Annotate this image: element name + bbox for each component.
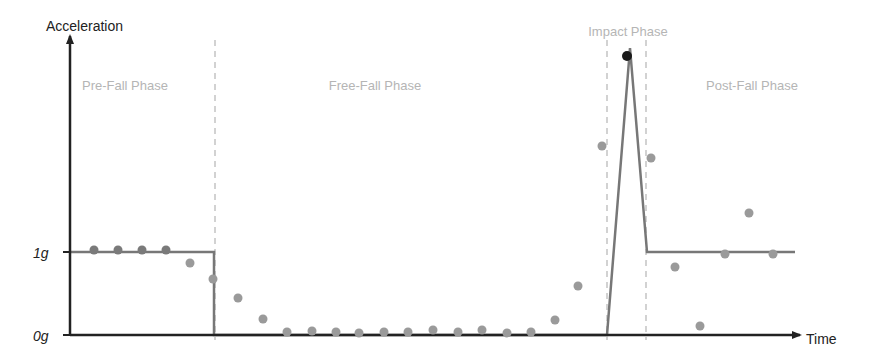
phase-dividers <box>215 40 646 340</box>
data-point <box>234 294 243 303</box>
data-points <box>90 51 778 338</box>
data-point <box>598 142 607 151</box>
acceleration-model-line <box>70 48 795 335</box>
data-point <box>696 322 705 331</box>
data-point <box>355 329 364 338</box>
data-point <box>671 263 680 272</box>
data-point <box>308 327 317 336</box>
data-point <box>259 315 268 324</box>
data-point <box>138 246 147 255</box>
phase-label: Free-Fall Phase <box>329 78 421 93</box>
data-point <box>574 282 583 291</box>
data-point <box>114 246 123 255</box>
data-point <box>454 328 463 337</box>
diagram-canvas: Pre-Fall PhaseFree-Fall PhaseImpact Phas… <box>0 0 878 361</box>
x-axis-label: Time <box>806 331 837 347</box>
data-point <box>186 259 195 268</box>
data-point <box>745 209 754 218</box>
data-point <box>551 316 560 325</box>
data-point <box>721 250 730 259</box>
tick-label-0g: 0g <box>33 328 49 344</box>
y-axis-label: Acceleration <box>46 18 123 34</box>
data-point <box>404 328 413 337</box>
tick-label-1g: 1g <box>33 245 49 261</box>
phase-label: Post-Fall Phase <box>706 78 798 93</box>
data-point <box>503 329 512 338</box>
data-point <box>380 328 389 337</box>
data-point <box>90 246 99 255</box>
phase-label: Impact Phase <box>588 24 668 39</box>
data-point <box>209 275 218 284</box>
peak-data-point <box>622 51 632 61</box>
data-point <box>162 246 171 255</box>
data-point <box>478 326 487 335</box>
data-point <box>647 154 656 163</box>
data-point <box>283 328 292 337</box>
data-point <box>527 328 536 337</box>
data-point <box>429 326 438 335</box>
phase-labels: Pre-Fall PhaseFree-Fall PhaseImpact Phas… <box>82 24 798 93</box>
data-point <box>769 250 778 259</box>
phase-label: Pre-Fall Phase <box>82 78 168 93</box>
fall-detection-diagram: Pre-Fall PhaseFree-Fall PhaseImpact Phas… <box>0 0 878 361</box>
data-point <box>332 328 341 337</box>
